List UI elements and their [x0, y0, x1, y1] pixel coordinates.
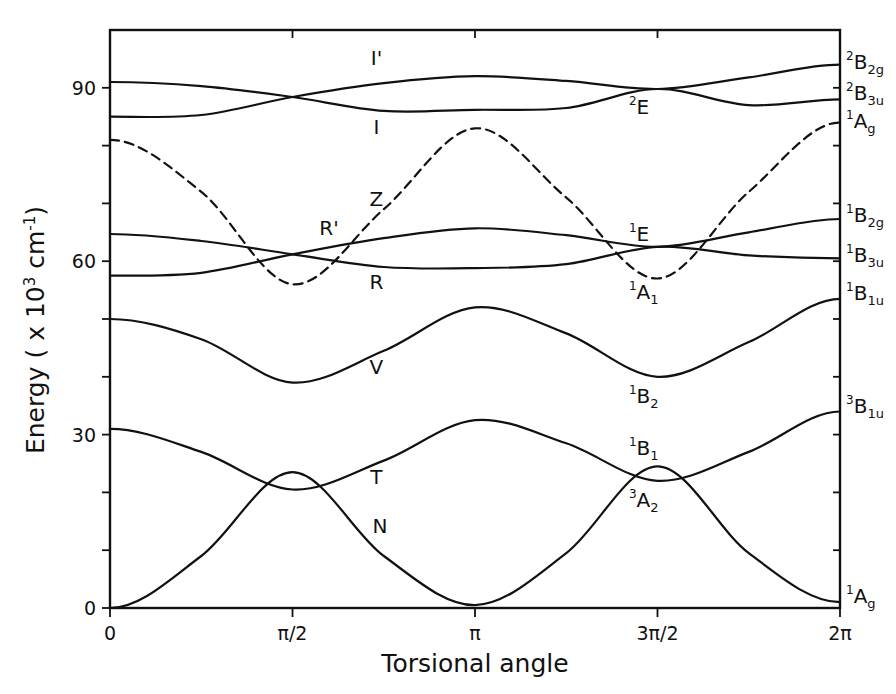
state-label-multiplicity: 1: [629, 435, 637, 449]
crossing-labels: 2E1E1A11B21B13A2: [629, 94, 659, 515]
state-label-symbol: B: [854, 81, 868, 105]
state-label-symbol: B: [854, 281, 868, 305]
state-label-multiplicity: 1: [846, 583, 854, 597]
state-label-subscript: 2: [650, 396, 658, 411]
state-label-subscript: 1u: [867, 293, 884, 308]
curve-labels: I'IZR'RVTN: [319, 46, 387, 538]
state-label-subscript: 1: [650, 292, 658, 307]
state-label: 2E: [629, 94, 649, 119]
state-label-multiplicity: 3: [846, 393, 854, 407]
energy-torsion-chart: 0306090 0π/2π3π/22π I'IZR'RVTN 2E1E1A11B…: [0, 0, 896, 694]
state-label-symbol: A: [637, 280, 651, 304]
curve-label: N: [373, 514, 388, 538]
curve-group: [110, 65, 840, 608]
state-label: 1Ag: [846, 583, 876, 611]
state-label: 1Ag: [846, 108, 876, 136]
state-label-symbol: A: [637, 488, 651, 512]
curve-label: V: [370, 355, 384, 379]
y-axis-ticks: 0306090: [72, 77, 840, 619]
state-label-subscript: 2g: [867, 62, 884, 77]
state-label: 3B1u: [846, 393, 884, 421]
state-label: 1B1u: [846, 280, 884, 308]
state-label-multiplicity: 1: [846, 242, 854, 256]
state-label-subscript: 1: [650, 448, 658, 463]
curve-i-prime: [110, 82, 840, 112]
state-label-multiplicity: 2: [846, 49, 854, 63]
state-label-symbol: B: [854, 243, 868, 267]
state-label-multiplicity: 1: [846, 202, 854, 216]
state-label-multiplicity: 1: [846, 108, 854, 122]
state-label-multiplicity: 2: [846, 80, 854, 94]
curve-label: R: [369, 270, 383, 294]
state-label-subscript: 2: [650, 500, 658, 515]
state-label-subscript: g: [867, 121, 875, 136]
y-axis-title-sup3: 3: [21, 277, 39, 287]
y-tick-label: 60: [72, 250, 96, 272]
x-axis-title: Torsional angle: [380, 649, 568, 678]
state-label-symbol: B: [854, 394, 868, 418]
y-tick-label: 0: [84, 597, 96, 619]
state-label: 2B2g: [846, 49, 884, 77]
curve-label: Z: [370, 187, 384, 211]
state-label-symbol: B: [854, 50, 868, 74]
x-tick-label: π/2: [278, 622, 308, 644]
state-label-subscript: g: [867, 596, 875, 611]
state-label-symbol: E: [637, 95, 650, 119]
state-label-subscript: 1u: [867, 406, 884, 421]
right-state-labels: 2B2g2B3u1Ag1B2g1B3u1B1u3B1u1Ag: [846, 49, 884, 612]
y-tick-label: 30: [72, 424, 96, 446]
state-label: 1B2: [629, 383, 659, 411]
state-label-symbol: A: [854, 584, 868, 608]
state-label: 1E: [629, 221, 649, 246]
y-axis-title-unit: cm: [21, 231, 50, 277]
state-label: 2B3u: [846, 80, 884, 108]
state-label: 1B3u: [846, 242, 884, 270]
y-axis-title: Energy ( x 103 cm-1): [21, 206, 50, 454]
curve-v: [110, 299, 840, 383]
state-label-multiplicity: 1: [629, 279, 637, 293]
x-tick-label: π: [469, 622, 480, 644]
state-label-subscript: 3u: [867, 255, 884, 270]
curve-n: [110, 466, 840, 608]
plot-frame: [110, 30, 840, 608]
x-axis-ticks: 0π/2π3π/22π: [104, 30, 852, 644]
state-label-symbol: B: [637, 436, 651, 460]
x-tick-label: 3π/2: [636, 622, 678, 644]
state-label-symbol: B: [637, 384, 651, 408]
state-label: 3A2: [629, 487, 659, 515]
x-tick-label: 0: [104, 622, 116, 644]
state-label-subscript: 3u: [867, 93, 884, 108]
state-label-multiplicity: 1: [846, 280, 854, 294]
state-label-multiplicity: 1: [629, 383, 637, 397]
state-label-multiplicity: 1: [629, 221, 637, 235]
curve-label: I': [371, 46, 382, 70]
y-axis-title-sup-minus1: -1: [21, 216, 39, 231]
curve-label: R': [319, 216, 338, 240]
state-label-symbol: B: [854, 203, 868, 227]
curve-z: [110, 123, 840, 285]
curve-label: I: [373, 115, 379, 139]
state-label: 1B1: [629, 435, 659, 463]
state-label: 1B2g: [846, 202, 884, 230]
plot-area-border: [110, 30, 840, 608]
y-axis-title-close: ): [21, 206, 50, 216]
state-label-symbol: E: [637, 222, 650, 246]
state-label: 1A1: [629, 279, 659, 307]
state-label-multiplicity: 2: [629, 94, 637, 108]
x-tick-label: 2π: [828, 622, 852, 644]
y-axis-title-main: Energy ( x 10: [21, 286, 50, 454]
curve-label: T: [369, 465, 383, 489]
y-tick-label: 90: [72, 77, 96, 99]
state-label-subscript: 2g: [867, 215, 884, 230]
state-label-multiplicity: 3: [629, 487, 637, 501]
curve-r-prime: [110, 234, 840, 269]
curve-t: [110, 412, 840, 490]
state-label-symbol: A: [854, 109, 868, 133]
